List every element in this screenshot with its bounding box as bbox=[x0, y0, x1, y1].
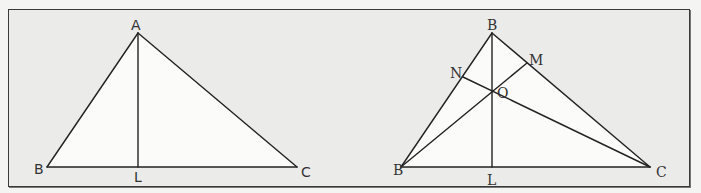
label-C: C bbox=[301, 164, 311, 180]
label-C: C bbox=[656, 164, 667, 180]
geometry-diagram: A B C L B B C L M N O bbox=[0, 0, 701, 193]
left-triangle-panel: A B C L bbox=[34, 17, 311, 185]
label-B-top: B bbox=[487, 17, 497, 33]
label-B: B bbox=[34, 161, 44, 177]
right-triangle-panel: B B C L M N O bbox=[393, 17, 667, 188]
label-L: L bbox=[487, 172, 496, 188]
label-M: M bbox=[529, 52, 543, 68]
label-L: L bbox=[134, 169, 142, 185]
label-A: A bbox=[131, 17, 141, 33]
right-triangle-fill bbox=[401, 33, 650, 167]
label-O: O bbox=[497, 85, 508, 101]
label-B-left: B bbox=[393, 162, 403, 178]
label-N: N bbox=[450, 65, 462, 81]
left-triangle-fill bbox=[47, 33, 297, 167]
